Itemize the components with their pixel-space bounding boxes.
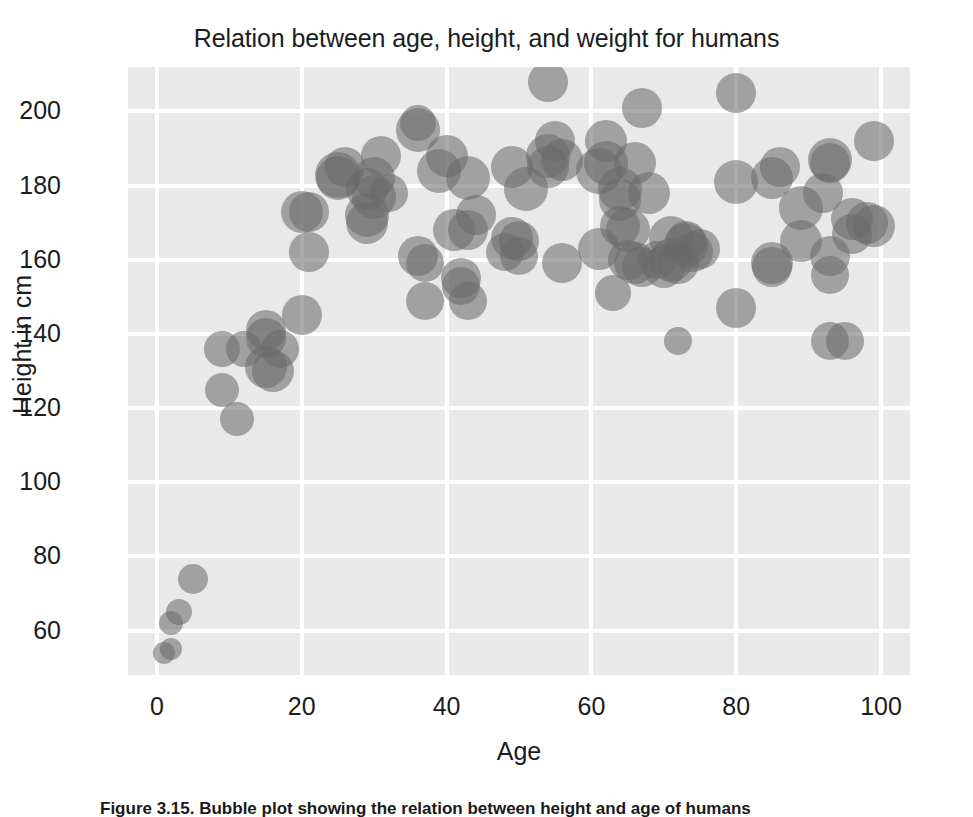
scatter-point <box>811 256 849 294</box>
scatter-point <box>289 232 329 272</box>
x-tick-label: 100 <box>821 694 941 719</box>
scatter-point <box>449 282 487 320</box>
figure-caption: Figure 3.15. Bubble plot showing the rel… <box>100 799 900 817</box>
chart-title: Relation between age, height, and weight… <box>0 24 973 53</box>
scatter-point <box>361 136 401 176</box>
x-tick-label: 40 <box>387 694 507 719</box>
scatter-point <box>446 156 490 200</box>
scatter-point <box>456 195 496 235</box>
scatter-point <box>261 330 299 368</box>
y-tick-label: 80 <box>0 543 61 568</box>
scatter-point <box>628 172 670 214</box>
scatter-point <box>853 205 895 247</box>
scatter-point <box>622 88 662 128</box>
scatter-point <box>178 564 208 594</box>
scatter-point <box>282 295 322 335</box>
y-tick-label: 200 <box>0 98 61 123</box>
x-tick-label: 0 <box>97 694 217 719</box>
scatter-point <box>664 327 692 355</box>
x-tick-label: 20 <box>242 694 362 719</box>
x-tick-label: 60 <box>531 694 651 719</box>
plot-area <box>128 67 910 675</box>
scatter-point <box>680 229 720 269</box>
y-axis-label: Height in cm <box>8 180 37 510</box>
figure-container: Relation between age, height, and weight… <box>0 0 973 817</box>
x-tick-label: 80 <box>676 694 796 719</box>
scatter-point <box>370 174 408 212</box>
scatter-point <box>220 402 254 436</box>
scatter-point <box>406 244 444 282</box>
scatter-point <box>500 237 538 275</box>
scatter-point <box>760 147 800 187</box>
scatter-point <box>716 288 756 328</box>
scatter-point <box>854 121 894 161</box>
y-tick-label: 60 <box>0 618 61 643</box>
scatter-point <box>810 143 850 183</box>
scatter-point <box>160 638 182 660</box>
scatter-point <box>826 322 864 360</box>
scatter-points-layer <box>128 67 910 675</box>
scatter-point <box>528 67 568 102</box>
scatter-point <box>406 282 444 320</box>
scatter-point <box>716 73 756 113</box>
x-axis-label: Age <box>128 737 910 766</box>
scatter-point <box>289 192 329 232</box>
scatter-point <box>542 243 582 283</box>
scatter-point <box>166 599 192 625</box>
